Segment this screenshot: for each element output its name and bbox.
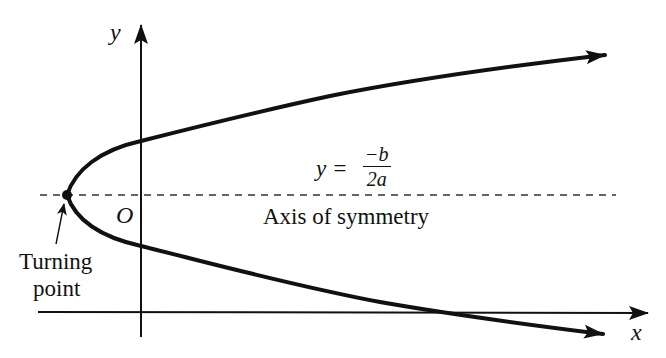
equation-denominator: 2a <box>367 167 387 189</box>
x-axis-label: x <box>631 320 642 344</box>
parabola-diagram: y x O y = −b 2a Axis of symmetry Turning… <box>0 0 666 358</box>
turning-point-dot <box>62 190 72 200</box>
equation-numerator: −b <box>363 144 391 167</box>
axis-of-symmetry-label: Axis of symmetry <box>263 205 429 228</box>
equation-lhs: y = <box>316 157 347 180</box>
x-axis <box>38 312 648 313</box>
turning-point-pointer <box>56 204 64 244</box>
y-axis-label: y <box>110 20 121 44</box>
turning-point-label-line1: Turning <box>19 250 92 273</box>
turning-point-label-line2: point <box>33 277 80 300</box>
origin-label: O <box>116 203 133 227</box>
equation-fraction: −b 2a <box>363 144 391 189</box>
